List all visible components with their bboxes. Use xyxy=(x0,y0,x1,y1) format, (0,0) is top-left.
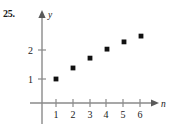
y-axis-label: y xyxy=(47,10,53,20)
x-tick-label-5: 5 xyxy=(121,109,126,120)
y-tick-label-2: 2 xyxy=(28,45,33,56)
data-point-2 xyxy=(71,66,76,71)
data-point-1 xyxy=(54,77,59,82)
y-axis-arrow-icon xyxy=(38,10,45,18)
x-tick-label-2: 2 xyxy=(71,109,76,120)
data-point-3 xyxy=(88,56,93,61)
x-tick-label-1: 1 xyxy=(54,109,59,120)
x-tick-label-4: 4 xyxy=(104,109,109,120)
figure-container: 25. 1 2 1 2 3 4 5 6 y n xyxy=(0,0,170,124)
data-point-5 xyxy=(122,39,127,44)
scatter-plot: 1 2 1 2 3 4 5 6 y n xyxy=(0,0,170,124)
x-axis-arrow-icon xyxy=(151,99,159,106)
y-tick-label-1: 1 xyxy=(28,74,33,85)
data-point-6 xyxy=(139,34,144,39)
x-tick-label-6: 6 xyxy=(138,109,143,120)
x-axis-label: n xyxy=(161,99,166,109)
data-point-4 xyxy=(105,47,110,52)
x-tick-label-3: 3 xyxy=(88,109,93,120)
